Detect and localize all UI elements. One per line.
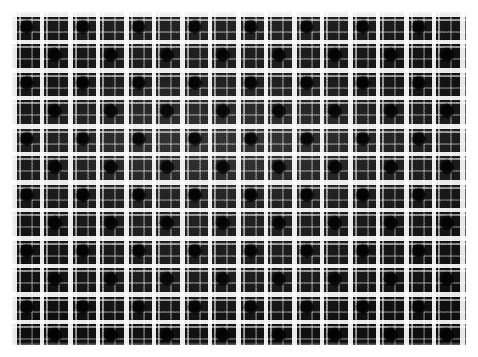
lighting-gradient-layer [12,12,466,345]
plaid-fabric-swatch [12,12,466,345]
image-canvas [0,0,478,357]
